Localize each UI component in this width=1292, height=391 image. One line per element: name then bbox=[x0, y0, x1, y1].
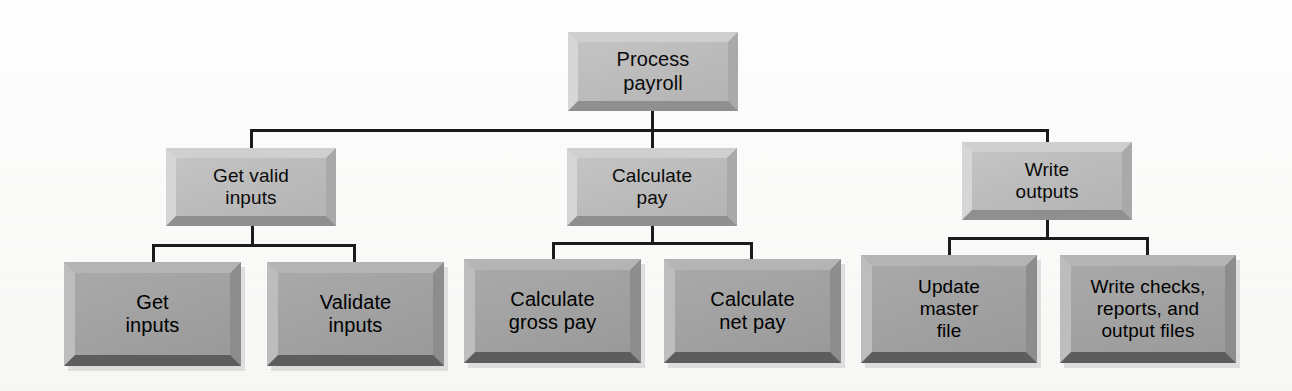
connector-drop-validate bbox=[353, 244, 356, 263]
node-calculate-pay[interactable]: Calculate pay bbox=[567, 148, 737, 226]
node-label: Process payroll bbox=[611, 48, 696, 94]
connector-root-stem bbox=[651, 110, 654, 131]
connector-drop-calc-gross bbox=[552, 242, 555, 260]
node-validate-inputs[interactable]: Validate inputs bbox=[267, 262, 444, 366]
connector-drop-calc-net bbox=[750, 242, 753, 260]
connector-bus-write-out bbox=[948, 237, 1149, 240]
connector-drop-get-inputs bbox=[152, 244, 155, 263]
connector-drop-write-out bbox=[1046, 129, 1049, 143]
node-label: Get valid inputs bbox=[207, 165, 295, 209]
node-label: Calculate gross pay bbox=[503, 288, 603, 334]
node-process-payroll[interactable]: Process payroll bbox=[568, 32, 738, 111]
connector-bus-calc-pay bbox=[552, 242, 753, 245]
node-label: Calculate pay bbox=[606, 165, 698, 209]
node-write-outputs[interactable]: Write outputs bbox=[962, 142, 1132, 220]
node-label: Validate inputs bbox=[314, 291, 398, 337]
node-write-checks-reports-output-files[interactable]: Write checks, reports, and output files bbox=[1060, 255, 1236, 363]
structure-chart-canvas: Process payrollGet valid inputsCalculate… bbox=[0, 0, 1292, 391]
connector-bus-get-valid bbox=[152, 244, 356, 247]
node-label: Write outputs bbox=[1009, 159, 1084, 203]
node-label: Get inputs bbox=[120, 291, 186, 337]
node-update-master-file[interactable]: Update master file bbox=[861, 255, 1037, 363]
node-calculate-gross-pay[interactable]: Calculate gross pay bbox=[464, 259, 641, 363]
node-calculate-net-pay[interactable]: Calculate net pay bbox=[664, 259, 841, 363]
connector-stem-get-valid bbox=[251, 226, 254, 246]
node-label: Write checks, reports, and output files bbox=[1085, 276, 1212, 342]
connector-drop-calc-pay bbox=[651, 129, 654, 149]
connector-stem-write-out bbox=[1046, 220, 1049, 238]
connector-level1-bus bbox=[250, 129, 1048, 132]
node-get-valid-inputs[interactable]: Get valid inputs bbox=[166, 148, 336, 226]
node-label: Calculate net pay bbox=[704, 288, 800, 334]
connector-drop-update-master bbox=[948, 237, 951, 256]
node-label: Update master file bbox=[912, 276, 986, 342]
connector-drop-write-checks bbox=[1146, 237, 1149, 256]
connector-drop-get-valid bbox=[250, 129, 253, 149]
node-get-inputs[interactable]: Get inputs bbox=[64, 262, 241, 366]
